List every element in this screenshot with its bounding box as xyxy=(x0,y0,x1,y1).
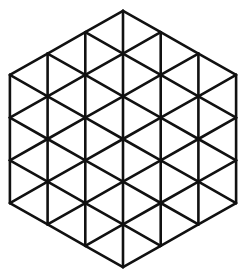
grid-edge xyxy=(198,96,236,117)
grid-edge xyxy=(198,54,236,75)
grid-edge xyxy=(161,139,199,160)
grid-edge xyxy=(161,224,199,245)
grid-edge xyxy=(161,96,199,117)
grid-edge xyxy=(198,75,236,96)
grid-edge xyxy=(161,54,199,75)
grid-edge xyxy=(123,75,161,96)
grid-edge xyxy=(123,96,161,117)
grid-edge xyxy=(161,160,199,181)
grid-edge xyxy=(48,182,86,203)
grid-edge xyxy=(48,139,86,160)
grid-edge xyxy=(48,118,86,139)
grid-edge xyxy=(123,203,161,224)
grid-edge xyxy=(198,182,236,203)
grid-edge xyxy=(123,118,161,139)
grid-edge xyxy=(85,203,123,224)
grid-edge xyxy=(85,182,123,203)
grid-edge xyxy=(123,32,161,53)
grid-edge xyxy=(123,246,161,267)
grid-edge xyxy=(198,139,236,160)
grid-edge xyxy=(85,246,123,267)
grid-edge xyxy=(198,203,236,224)
grid-edge xyxy=(10,96,48,117)
grid-edge xyxy=(161,118,199,139)
grid-edge xyxy=(10,118,48,139)
grid-edge xyxy=(48,75,86,96)
grid-edge xyxy=(85,54,123,75)
grid-edge xyxy=(198,118,236,139)
grid-edge xyxy=(123,11,161,32)
grid-edge xyxy=(48,96,86,117)
grid-edge xyxy=(85,139,123,160)
grid-edge xyxy=(123,139,161,160)
grid-edge xyxy=(10,160,48,181)
grid-edge xyxy=(85,224,123,245)
grid-edge xyxy=(161,32,199,53)
grid-edge xyxy=(161,182,199,203)
grid-edge xyxy=(10,54,48,75)
grid-edge xyxy=(198,160,236,181)
grid-edge xyxy=(123,224,161,245)
grid-edge xyxy=(10,139,48,160)
grid-edge xyxy=(161,203,199,224)
grid-edge xyxy=(48,32,86,53)
grid-edge xyxy=(48,203,86,224)
grid-edge xyxy=(161,75,199,96)
grid-edge xyxy=(48,54,86,75)
grid-edge xyxy=(10,75,48,96)
grid-edge xyxy=(123,160,161,181)
hex-triangle-grid xyxy=(0,0,252,277)
grid-edge xyxy=(48,160,86,181)
grid-edge xyxy=(10,182,48,203)
grid-edge xyxy=(123,182,161,203)
grid-edge xyxy=(85,118,123,139)
grid-edge xyxy=(85,160,123,181)
grid-edge xyxy=(85,11,123,32)
grid-edge xyxy=(10,203,48,224)
grid-edge xyxy=(123,54,161,75)
grid-edge xyxy=(85,75,123,96)
grid-edge xyxy=(48,224,86,245)
grid-lines xyxy=(10,11,236,267)
grid-edge xyxy=(85,96,123,117)
grid-edge xyxy=(85,32,123,53)
